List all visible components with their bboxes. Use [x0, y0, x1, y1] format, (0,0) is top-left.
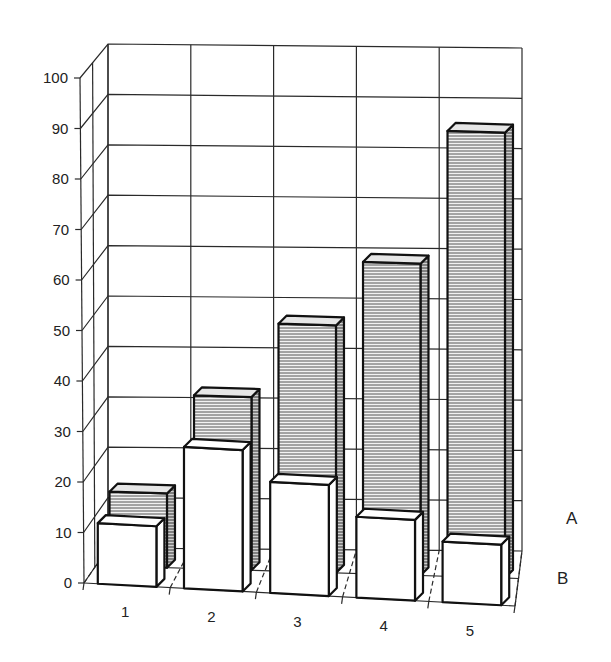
y-tick-label: 50 [53, 322, 70, 339]
y-tick-label: 0 [64, 574, 72, 591]
y-tick-label: 30 [54, 423, 71, 440]
y-tick-label: 90 [52, 120, 69, 137]
bar-a-5 [448, 123, 513, 578]
x-tick-label: 5 [466, 622, 474, 639]
y-tick-label: 100 [43, 69, 68, 86]
x-tick-label: 4 [380, 617, 388, 634]
y-tick-label: 80 [52, 170, 69, 187]
y-tick-label: 20 [55, 473, 72, 490]
bar-b-3 [270, 474, 337, 596]
bar-b-5 [443, 534, 510, 606]
y-tick-label: 10 [55, 524, 72, 541]
series-label-b: B [557, 569, 568, 588]
bar-b-1 [98, 515, 165, 587]
x-tick-label: 1 [121, 603, 129, 620]
y-tick-label: 40 [54, 372, 71, 389]
bar-chart-3d: 010203040506070809010012345AB [0, 0, 611, 662]
x-tick-label: 3 [293, 613, 301, 630]
bar-b-2 [184, 439, 251, 592]
series-label-a: A [566, 509, 578, 528]
y-tick-label: 60 [53, 271, 70, 288]
y-tick-label: 70 [53, 221, 70, 238]
x-tick-label: 2 [207, 608, 215, 625]
bar-b-4 [356, 509, 423, 601]
gridline-100 [80, 44, 522, 78]
